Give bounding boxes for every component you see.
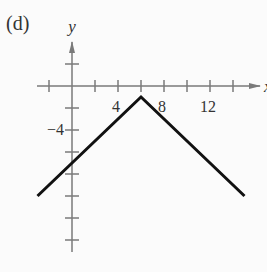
x-tick-label: 4: [112, 98, 120, 115]
figure-panel: (d) 4812−4yx: [0, 0, 267, 272]
tick-labels: 4812−4yx: [47, 17, 267, 138]
x-axis-label: x: [263, 77, 267, 96]
x-tick-label: 12: [200, 98, 216, 115]
ticks: [49, 64, 233, 240]
y-axis-label: y: [66, 17, 76, 36]
y-tick-label: −4: [47, 121, 64, 138]
chart-svg: 4812−4yx: [0, 0, 267, 272]
axes: [37, 42, 260, 252]
